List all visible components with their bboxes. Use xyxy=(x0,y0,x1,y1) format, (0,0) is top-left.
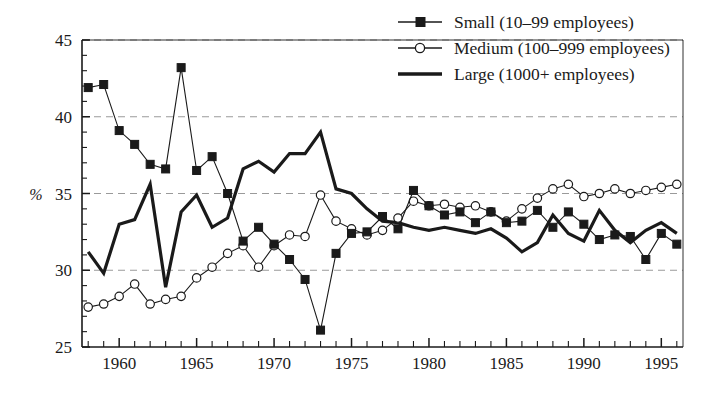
data-point-small-1989 xyxy=(564,208,572,216)
data-point-medium-1983 xyxy=(471,202,479,210)
chart-root: 2530354045 19601965197019751980198519901… xyxy=(0,0,711,393)
series-line-large xyxy=(88,132,677,287)
data-point-medium-1981 xyxy=(440,200,448,208)
data-point-small-1995 xyxy=(657,229,665,237)
legend-item-2[interactable]: Medium (100–999 employees) xyxy=(398,38,670,58)
data-point-small-1987 xyxy=(533,206,541,214)
data-point-medium-1993 xyxy=(626,189,634,197)
data-point-small-1962 xyxy=(146,160,154,168)
data-point-small-1978 xyxy=(394,225,402,233)
data-point-small-1984 xyxy=(487,208,495,216)
y-axis-tick-labels: 2530354045 xyxy=(55,31,72,357)
data-point-small-1972 xyxy=(301,275,309,283)
data-point-small-1971 xyxy=(286,256,294,264)
series-small xyxy=(84,64,681,334)
data-point-medium-1960 xyxy=(115,292,123,300)
data-point-medium-1987 xyxy=(533,194,541,202)
y-tick-label-45: 45 xyxy=(55,31,72,50)
data-point-medium-1971 xyxy=(285,231,293,239)
series-line-small xyxy=(88,68,677,330)
x-tick-label-1990: 1990 xyxy=(567,354,601,373)
data-point-small-1964 xyxy=(177,64,185,72)
data-point-medium-1988 xyxy=(549,185,557,193)
data-point-small-1970 xyxy=(270,240,278,248)
data-point-medium-1958 xyxy=(84,303,92,311)
data-point-medium-1990 xyxy=(580,192,588,200)
data-point-small-1960 xyxy=(115,127,123,135)
legend-filled-square-icon xyxy=(416,18,425,27)
data-point-small-1961 xyxy=(131,140,139,148)
data-point-small-1990 xyxy=(580,220,588,228)
data-point-medium-1994 xyxy=(642,186,650,194)
data-point-small-1974 xyxy=(332,249,340,257)
data-point-small-1982 xyxy=(456,208,464,216)
data-point-medium-1973 xyxy=(316,191,324,199)
data-point-medium-1965 xyxy=(192,274,200,282)
data-point-medium-1995 xyxy=(657,183,665,191)
chart-legend: Small (10–99 employees)Medium (100–999 e… xyxy=(398,12,670,84)
x-axis-ticks xyxy=(88,338,677,347)
data-point-medium-1989 xyxy=(564,180,572,188)
x-tick-label-1980: 1980 xyxy=(412,354,446,373)
x-tick-label-1995: 1995 xyxy=(644,354,678,373)
legend-label-1: Small (10–99 employees) xyxy=(454,12,634,32)
data-point-small-1963 xyxy=(162,165,170,173)
data-point-small-1986 xyxy=(518,217,526,225)
data-point-small-1959 xyxy=(100,81,108,89)
x-tick-label-1960: 1960 xyxy=(102,354,136,373)
data-point-medium-1972 xyxy=(301,232,309,240)
legend-label-2: Medium (100–999 employees) xyxy=(454,38,670,58)
x-tick-label-1985: 1985 xyxy=(489,354,523,373)
legend-item-3[interactable]: Large (1000+ employees) xyxy=(398,64,635,84)
y-tick-label-35: 35 xyxy=(55,185,72,204)
data-point-small-1979 xyxy=(409,186,417,194)
data-point-small-1958 xyxy=(84,84,92,92)
data-point-small-1973 xyxy=(317,326,325,334)
data-point-medium-1996 xyxy=(673,180,681,188)
data-point-small-1976 xyxy=(363,228,371,236)
data-point-medium-1991 xyxy=(595,189,603,197)
data-point-small-1967 xyxy=(224,190,232,198)
series-line-medium xyxy=(88,184,677,307)
data-point-small-1966 xyxy=(208,153,216,161)
legend-item-1[interactable]: Small (10–99 employees) xyxy=(398,12,634,32)
y-axis-title: % xyxy=(29,186,42,203)
data-point-medium-1964 xyxy=(177,292,185,300)
data-point-medium-1961 xyxy=(130,280,138,288)
data-point-medium-1977 xyxy=(378,226,386,234)
data-point-small-1994 xyxy=(642,256,650,264)
data-point-medium-1974 xyxy=(332,217,340,225)
y-tick-label-25: 25 xyxy=(55,338,72,357)
series-large xyxy=(88,132,677,287)
y-tick-label-30: 30 xyxy=(55,261,72,280)
data-point-small-1980 xyxy=(425,202,433,210)
data-point-small-1991 xyxy=(595,236,603,244)
data-point-medium-1966 xyxy=(208,263,216,271)
y-axis-label: % xyxy=(29,186,42,203)
x-tick-label-1975: 1975 xyxy=(335,354,369,373)
data-point-small-1993 xyxy=(626,232,634,240)
data-point-medium-1963 xyxy=(161,295,169,303)
x-tick-label-1965: 1965 xyxy=(180,354,214,373)
data-point-small-1969 xyxy=(255,223,263,231)
data-point-medium-1992 xyxy=(611,185,619,193)
data-point-small-1983 xyxy=(471,219,479,227)
data-point-small-1965 xyxy=(193,166,201,174)
data-point-small-1977 xyxy=(379,213,387,221)
data-point-medium-1969 xyxy=(254,263,262,271)
line-chart: 2530354045 19601965197019751980198519901… xyxy=(0,0,711,393)
data-point-small-1975 xyxy=(348,229,356,237)
x-axis-tick-labels: 19601965197019751980198519901995 xyxy=(102,354,678,373)
data-point-small-1988 xyxy=(549,223,557,231)
legend-open-circle-icon xyxy=(415,43,424,52)
data-point-medium-1986 xyxy=(518,205,526,213)
data-point-medium-1959 xyxy=(99,300,107,308)
data-point-small-1981 xyxy=(440,211,448,219)
data-point-small-1996 xyxy=(673,240,681,248)
data-point-small-1985 xyxy=(502,219,510,227)
data-point-small-1968 xyxy=(239,237,247,245)
data-point-small-1992 xyxy=(611,231,619,239)
legend-label-3: Large (1000+ employees) xyxy=(454,64,635,84)
y-tick-label-40: 40 xyxy=(55,108,72,127)
data-point-medium-1962 xyxy=(146,300,154,308)
